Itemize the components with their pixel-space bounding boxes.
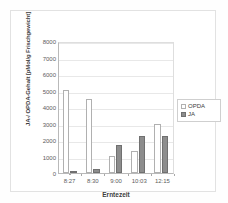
bar-series-container bbox=[59, 43, 173, 173]
bar-ja[interactable] bbox=[70, 171, 76, 173]
bar-opda[interactable] bbox=[63, 90, 69, 173]
x-axis-tick-mark bbox=[151, 174, 152, 176]
bar-group bbox=[82, 43, 105, 173]
y-axis-tick-labels: 010002000300040005000600070008000 bbox=[24, 42, 56, 174]
y-axis-tick-label: 6000 bbox=[26, 72, 56, 78]
x-axis-tick-labels: 8:278:309:0010:0312:15 bbox=[58, 178, 174, 188]
bar-ja[interactable] bbox=[162, 136, 168, 173]
y-axis-tick-label: 8000 bbox=[26, 39, 56, 45]
x-axis-tick-label: 12:15 bbox=[151, 178, 174, 188]
legend-item-label: OPDA bbox=[188, 103, 205, 110]
legend-item[interactable]: OPDA bbox=[181, 102, 218, 110]
bar-ja[interactable] bbox=[116, 145, 122, 173]
bar-opda[interactable] bbox=[86, 99, 92, 173]
filled-bar-swatch bbox=[181, 112, 186, 117]
x-axis-label: Erntezeit bbox=[58, 191, 174, 198]
y-axis-tick-mark bbox=[69, 174, 71, 175]
bar-opda[interactable] bbox=[131, 151, 137, 173]
bar-group bbox=[127, 43, 150, 173]
y-axis-tick-label: 3000 bbox=[26, 122, 56, 128]
figure-frame: JA-/ OPDA-Gehalt [pMol/g Frischgewicht] … bbox=[10, 10, 216, 192]
bar-group bbox=[150, 43, 173, 173]
x-axis-tick-label: 9:00 bbox=[104, 178, 127, 188]
y-axis-tick-label: 2000 bbox=[26, 138, 56, 144]
bar-opda[interactable] bbox=[154, 124, 160, 174]
bar-ja[interactable] bbox=[139, 136, 145, 173]
x-axis-tick-label: 8:27 bbox=[58, 178, 81, 188]
hollow-bar-swatch bbox=[181, 104, 186, 109]
plot-area bbox=[58, 42, 174, 174]
bar-group bbox=[59, 43, 82, 173]
y-axis-tick-label: 0 bbox=[26, 171, 56, 177]
y-axis-tick-label: 4000 bbox=[26, 105, 56, 111]
x-axis-tick-label: 10:03 bbox=[128, 178, 151, 188]
x-axis-tick-mark bbox=[174, 174, 175, 176]
bar-opda[interactable] bbox=[109, 156, 115, 173]
y-axis-tick-label: 5000 bbox=[26, 89, 56, 95]
legend-item[interactable]: JA bbox=[181, 110, 218, 118]
x-axis-tick-label: 8:30 bbox=[81, 178, 104, 188]
y-axis-tick-label: 7000 bbox=[26, 56, 56, 62]
bar-group bbox=[105, 43, 128, 173]
bar-ja[interactable] bbox=[93, 169, 99, 173]
x-axis-tick-mark bbox=[104, 174, 105, 176]
legend-item-label: JA bbox=[188, 111, 195, 118]
chart-page: JA-/ OPDA-Gehalt [pMol/g Frischgewicht] … bbox=[0, 0, 228, 203]
chart-legend: OPDAJA bbox=[177, 99, 221, 122]
x-axis-tick-mark bbox=[81, 174, 82, 176]
y-axis-tick-label: 1000 bbox=[26, 155, 56, 161]
x-axis-tick-mark bbox=[128, 174, 129, 176]
